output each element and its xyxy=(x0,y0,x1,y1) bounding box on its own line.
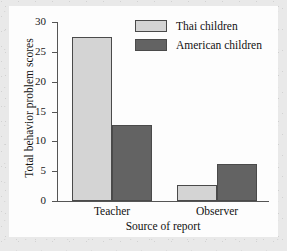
y-tick-label-20: 20 xyxy=(18,76,46,87)
y-tick-20 xyxy=(52,82,58,83)
y-tick-label-5: 5 xyxy=(18,165,46,176)
y-tick-label-15: 15 xyxy=(18,106,46,117)
x-label-teacher: Teacher xyxy=(72,205,152,217)
bar-chart: Total behavior problem scores 30 25 20 1… xyxy=(9,6,278,237)
bar-observer-thai[interactable] xyxy=(177,185,217,201)
bar-teacher-american[interactable] xyxy=(112,125,152,201)
y-tick-15 xyxy=(52,112,58,113)
y-tick-label-30: 30 xyxy=(18,16,46,27)
legend-item-american[interactable]: American children xyxy=(135,36,262,53)
y-tick-label-10: 10 xyxy=(18,135,46,146)
chart-panel: Total behavior problem scores 30 25 20 1… xyxy=(9,6,278,237)
y-tick-label-0: 0 xyxy=(18,195,46,206)
legend-label-thai: Thai children xyxy=(176,20,238,32)
legend-item-thai[interactable]: Thai children xyxy=(135,17,262,34)
dark-gray-swatch-icon xyxy=(135,39,167,51)
y-tick-5 xyxy=(52,171,58,172)
x-label-observer: Observer xyxy=(177,205,257,217)
y-tick-25 xyxy=(52,52,58,53)
bar-observer-american[interactable] xyxy=(217,164,257,201)
page-background: Total behavior problem scores 30 25 20 1… xyxy=(0,0,287,251)
y-tick-30 xyxy=(52,22,58,23)
legend-label-american: American children xyxy=(176,39,262,51)
bar-teacher-thai[interactable] xyxy=(72,37,112,201)
x-axis-title: Source of report xyxy=(57,220,269,232)
y-tick-10 xyxy=(52,141,58,142)
light-gray-swatch-icon xyxy=(135,20,167,32)
x-axis-line xyxy=(57,201,269,202)
y-tick-label-25: 25 xyxy=(18,46,46,57)
chart-legend: Thai children American children xyxy=(135,17,262,55)
